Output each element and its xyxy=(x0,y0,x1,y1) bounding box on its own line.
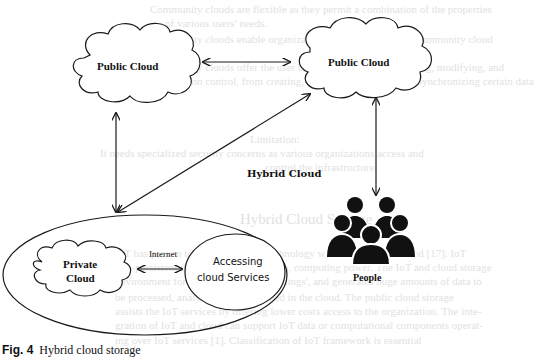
figure-caption-text: Hybrid cloud storage xyxy=(39,343,140,357)
accessing-services-label-line2: cloud Services xyxy=(197,272,269,283)
hybrid-cloud-label: Hybrid Cloud xyxy=(247,168,321,179)
people-icon xyxy=(326,197,416,265)
accessing-services-label-line1: Accessing xyxy=(213,256,263,267)
public-cloud-left-label: Public Cloud xyxy=(97,60,158,72)
public-cloud-right-label: Public Cloud xyxy=(328,56,389,68)
private-cloud-label-line2: Cloud xyxy=(66,272,95,284)
people-label: People xyxy=(353,272,381,283)
figure-number: Fig. 4 xyxy=(2,343,33,357)
private-cloud-label-line1: Private xyxy=(63,258,97,270)
internet-label: Internet xyxy=(149,249,177,259)
figure-caption: Fig. 4 Hybrid cloud storage xyxy=(2,343,141,358)
edge-public-right-hybrid xyxy=(118,94,310,212)
